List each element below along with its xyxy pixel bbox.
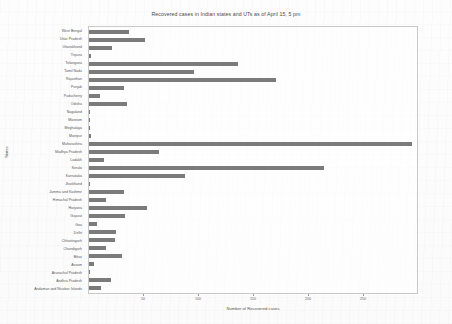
bar [89, 110, 90, 115]
bar-row [89, 76, 417, 84]
bar-row [89, 260, 417, 268]
bar [89, 86, 124, 91]
x-axis-tick: 50 [141, 294, 145, 301]
y-axis-tick-label: Odisha [0, 100, 85, 108]
y-axis-tick-label: Manipur [0, 132, 85, 140]
bar-row [89, 156, 417, 164]
bar [89, 238, 115, 243]
bar [89, 270, 90, 275]
y-axis-tick-label: Mizoram [0, 116, 85, 124]
y-axis-tick-label: Puducherry [0, 92, 85, 100]
bar-row [89, 188, 417, 196]
y-axis-tick-label: Tripura [0, 51, 85, 59]
bar [89, 94, 100, 99]
y-axis-tick-label: Goa [0, 221, 85, 229]
chart-title: Recovered cases in Indian states and UTs… [0, 11, 452, 17]
bar [89, 198, 106, 203]
bar-row [89, 44, 417, 52]
tick-mark [143, 294, 144, 296]
bar-row [89, 252, 417, 260]
bar-row [89, 228, 417, 236]
y-axis-tick-label: Maharashtra [0, 140, 85, 148]
bar [89, 142, 412, 147]
bar-row [89, 212, 417, 220]
y-axis-tick-label: Karnataka [0, 172, 85, 180]
y-axis-tick-label: Ladakh [0, 156, 85, 164]
tick-mark [308, 294, 309, 296]
bar [89, 158, 104, 163]
bar [89, 254, 122, 259]
bar-row [89, 60, 417, 68]
bar [89, 70, 194, 75]
bar-row [89, 100, 417, 108]
bar [89, 262, 94, 267]
bar-row [89, 268, 417, 276]
bar-row [89, 92, 417, 100]
bar [89, 78, 276, 83]
y-axis-tick-label: Assam [0, 261, 85, 269]
y-axis-tick-label: Telangana [0, 59, 85, 67]
y-axis-tick-label: Gujarat [0, 212, 85, 220]
bar-row [89, 116, 417, 124]
x-axis-tick: 100 [195, 294, 201, 301]
plot-area [88, 26, 418, 294]
bar [89, 62, 238, 67]
bar-series [89, 27, 417, 293]
tick-value: 50 [141, 297, 145, 301]
bar [89, 278, 111, 283]
bar [89, 134, 91, 139]
y-axis-tick-label: Rajasthan [0, 75, 85, 83]
y-axis-tick-label: Punjab [0, 83, 85, 91]
y-axis-tick-label: Nagaland [0, 108, 85, 116]
y-axis-tick-label: Uttar Pradesh [0, 35, 85, 43]
bar [89, 118, 90, 123]
y-axis-tick-label: Haryana [0, 204, 85, 212]
bar-row [89, 52, 417, 60]
y-axis-tick-label: Himachal Pradesh [0, 196, 85, 204]
tick-mark [363, 294, 364, 296]
x-axis-title: Number of Recovered cases [226, 306, 279, 311]
tick-value: 250 [360, 297, 366, 301]
bar [89, 54, 91, 59]
tick-value: 150 [250, 297, 256, 301]
bar [89, 230, 116, 235]
bar-row [89, 108, 417, 116]
bar [89, 206, 147, 211]
bar-row [89, 36, 417, 44]
y-axis-tick-label: Chhattisgarh [0, 237, 85, 245]
tick-mark [253, 294, 254, 296]
bar-row [89, 132, 417, 140]
bar-row [89, 68, 417, 76]
bar [89, 214, 125, 219]
y-axis-tick-label: Tamil Nadu [0, 67, 85, 75]
bar-row [89, 172, 417, 180]
y-axis-tick-label: Chandigarh [0, 245, 85, 253]
bar-row [89, 236, 417, 244]
bar-row [89, 148, 417, 156]
bar [89, 126, 90, 131]
bar-row [89, 84, 417, 92]
bar-row [89, 276, 417, 284]
bar [89, 174, 185, 179]
bar-row [89, 204, 417, 212]
bar [89, 222, 97, 227]
bar-row [89, 284, 417, 292]
bar-row [89, 164, 417, 172]
bar-chart: Recovered cases in Indian states and UTs… [0, 0, 452, 324]
y-axis-tick-label: Delhi [0, 229, 85, 237]
y-axis-tick-label: Kerala [0, 164, 85, 172]
y-axis-tick-label: Jammu and Kashmir [0, 188, 85, 196]
x-axis-tick: 200 [305, 294, 311, 301]
bar [89, 166, 324, 171]
bar [89, 286, 101, 291]
bar-row [89, 124, 417, 132]
bar [89, 150, 159, 155]
bar [89, 102, 127, 107]
y-axis-tick-label: Jharkhand [0, 180, 85, 188]
y-axis-tick-labels: West BengalUttar PradeshUttarakhandTripu… [0, 26, 85, 294]
y-axis-tick-label: Meghalaya [0, 124, 85, 132]
y-axis-tick-label: Andaman and Nicobar Islands [0, 285, 85, 293]
tick-mark [198, 294, 199, 296]
x-axis-tick: 250 [360, 294, 366, 301]
y-axis-tick-label: Bihar [0, 253, 85, 261]
